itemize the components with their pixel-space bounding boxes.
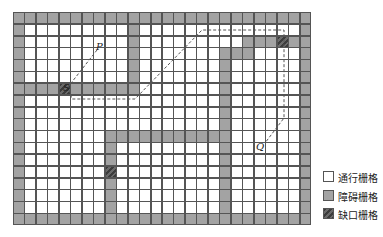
gap-cell-swatch-icon bbox=[323, 208, 334, 219]
legend-label-free: 通行栅格 bbox=[338, 170, 378, 185]
point-label-p: P bbox=[96, 41, 103, 52]
free-cell-swatch-icon bbox=[323, 171, 334, 182]
legend-label-obstacle: 障碍栅格 bbox=[338, 189, 378, 204]
legend-label-gap: 缺口栅格 bbox=[338, 207, 378, 222]
obstacle-cell-swatch-icon bbox=[323, 190, 334, 201]
point-label-q: Q bbox=[256, 141, 264, 152]
legend-item-gap: 缺口栅格 bbox=[323, 208, 383, 220]
point-label-s: S bbox=[63, 82, 70, 93]
legend-item-obstacle: 障碍栅格 bbox=[323, 190, 383, 202]
legend-item-free: 通行栅格 bbox=[323, 171, 383, 183]
